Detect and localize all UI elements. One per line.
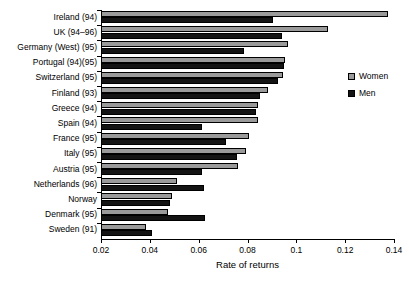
- bar-men-14: [101, 230, 152, 236]
- legend-item-women: Women: [348, 70, 388, 83]
- bar-women-6: [101, 102, 258, 108]
- y-tick-14: [97, 223, 101, 224]
- x-tick-6: [394, 239, 395, 243]
- bar-women-2: [101, 41, 288, 47]
- y-tick-8: [97, 132, 101, 133]
- y-tick-4: [97, 71, 101, 72]
- legend-label-men: Men: [359, 89, 376, 98]
- category-label-11: Netherlands (96): [0, 180, 97, 189]
- x-tick-0: [101, 239, 102, 243]
- bar-men-7: [101, 124, 202, 130]
- x-tick-5: [345, 239, 346, 243]
- bar-women-7: [101, 117, 258, 123]
- bar-men-5: [101, 93, 260, 99]
- bar-men-13: [101, 215, 205, 221]
- bar-men-9: [101, 154, 237, 160]
- bar-men-2: [101, 48, 244, 54]
- category-label-9: Italy (95): [0, 149, 97, 158]
- x-tick-label-5: 0.12: [325, 245, 365, 255]
- bar-women-11: [101, 178, 177, 184]
- bar-women-5: [101, 87, 268, 93]
- y-tick-1: [97, 25, 101, 26]
- bar-women-8: [101, 133, 249, 139]
- x-tick-label-6: 0.14: [374, 245, 409, 255]
- bar-men-0: [101, 17, 273, 23]
- bar-men-10: [101, 169, 202, 175]
- y-tick-5: [97, 86, 101, 87]
- x-axis-title: Rate of returns: [101, 259, 394, 270]
- legend-label-women: Women: [359, 72, 388, 81]
- bar-men-11: [101, 185, 204, 191]
- y-tick-9: [97, 147, 101, 148]
- x-tick-1: [150, 239, 151, 243]
- y-tick-13: [97, 208, 101, 209]
- category-label-6: Greece (94): [0, 104, 97, 113]
- legend-item-men: Men: [348, 87, 388, 100]
- bar-women-1: [101, 26, 328, 32]
- x-tick-label-0: 0.02: [81, 245, 121, 255]
- x-tick-label-3: 0.08: [228, 245, 268, 255]
- category-label-10: Austria (95): [0, 165, 97, 174]
- bar-men-8: [101, 139, 226, 145]
- category-label-14: Sweden (91): [0, 225, 97, 234]
- bar-men-12: [101, 200, 170, 206]
- legend-swatch-men-icon: [348, 90, 355, 97]
- bar-men-1: [101, 33, 282, 39]
- category-label-13: Denmark (95): [0, 210, 97, 219]
- category-label-12: Norway: [0, 195, 97, 204]
- bar-women-3: [101, 57, 285, 63]
- bar-women-13: [101, 209, 168, 215]
- y-tick-0: [97, 10, 101, 11]
- category-label-2: Germany (West) (95): [0, 43, 97, 52]
- bar-men-4: [101, 78, 278, 84]
- category-label-1: UK (94–96): [0, 28, 97, 37]
- legend-swatch-women-icon: [348, 73, 355, 80]
- bar-women-0: [101, 11, 388, 17]
- bar-women-4: [101, 72, 283, 78]
- bar-women-12: [101, 193, 172, 199]
- y-tick-6: [97, 101, 101, 102]
- x-tick-4: [296, 239, 297, 243]
- bar-men-6: [101, 109, 256, 115]
- category-label-7: Spain (94): [0, 119, 97, 128]
- x-tick-label-4: 0.1: [276, 245, 316, 255]
- y-tick-11: [97, 177, 101, 178]
- category-label-0: Ireland (94): [0, 13, 97, 22]
- category-label-4: Switzerland (95): [0, 73, 97, 82]
- x-tick-3: [248, 239, 249, 243]
- x-tick-label-2: 0.06: [179, 245, 219, 255]
- y-tick-3: [97, 56, 101, 57]
- bar-women-9: [101, 148, 246, 154]
- bar-women-10: [101, 163, 238, 169]
- y-tick-12: [97, 192, 101, 193]
- y-tick-10: [97, 162, 101, 163]
- category-label-5: Finland (93): [0, 89, 97, 98]
- x-tick-2: [199, 239, 200, 243]
- category-label-list: Ireland (94)UK (94–96)Germany (West) (95…: [0, 10, 97, 238]
- bar-women-14: [101, 224, 146, 230]
- plot-area: [101, 10, 394, 238]
- category-label-3: Portugal (94)(95): [0, 58, 97, 67]
- bar-men-3: [101, 63, 284, 69]
- y-tick-2: [97, 40, 101, 41]
- rate-of-returns-bar-chart: Ireland (94)UK (94–96)Germany (West) (95…: [0, 0, 409, 281]
- chart-legend: Women Men: [348, 70, 388, 104]
- category-label-8: France (95): [0, 134, 97, 143]
- x-tick-label-1: 0.04: [130, 245, 170, 255]
- y-tick-7: [97, 116, 101, 117]
